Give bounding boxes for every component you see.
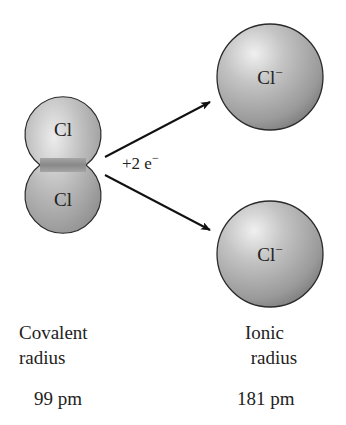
- electron-gain-label: +2 e−: [122, 151, 159, 173]
- chloride-ion-bottom: Cl−: [217, 201, 323, 307]
- caption-line2: radius: [244, 345, 304, 370]
- chloride-ion-top: Cl−: [217, 24, 323, 130]
- cl2-molecule: Cl Cl: [25, 97, 101, 233]
- arrow-down: [105, 175, 210, 230]
- covalent-radius-caption: Covalent radius: [19, 320, 88, 370]
- covalent-radius-value: 99 pm: [34, 386, 82, 411]
- ionic-radius-value: 181 pm: [237, 386, 295, 411]
- caption-line2: radius: [19, 345, 88, 370]
- bond-neck: [40, 158, 86, 172]
- caption-line1: Covalent: [19, 320, 88, 345]
- atom-label-bottom: Cl: [54, 189, 72, 210]
- atom-label-top: Cl: [54, 119, 72, 140]
- arrow-up: [105, 102, 210, 157]
- caption-line1: Ionic: [244, 320, 304, 345]
- ionic-radius-caption: Ionic radius: [244, 320, 304, 370]
